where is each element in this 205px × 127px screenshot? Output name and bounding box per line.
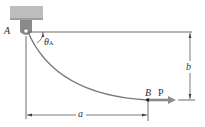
- dimension-b-arrow-bottom: [189, 94, 192, 99]
- angle-subscript: A: [49, 40, 53, 46]
- cable-diagram: [0, 0, 205, 127]
- label-point-a: A: [4, 26, 10, 36]
- label-dimension-a: a: [78, 109, 83, 119]
- force-arrow-head: [168, 96, 176, 104]
- label-force-p: P: [158, 88, 164, 98]
- label-angle: θA: [44, 37, 53, 48]
- dimension-a-arrow-left: [27, 114, 32, 117]
- dimension-b-arrow-top: [189, 33, 192, 38]
- angle-arc: [37, 32, 43, 43]
- label-point-b: B: [145, 88, 151, 98]
- ceiling-support-edge: [10, 18, 43, 20]
- label-dimension-b: b: [186, 62, 191, 72]
- ceiling-support: [10, 6, 43, 20]
- dimension-a-arrow-right: [142, 114, 147, 117]
